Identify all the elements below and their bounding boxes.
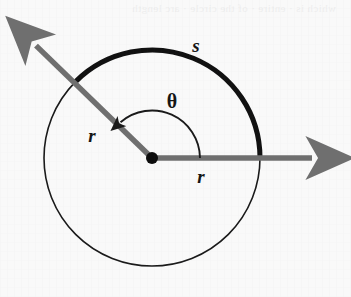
central-angle-arc — [121, 111, 201, 158]
figure-root: which is · entire · of the circle · arc … — [0, 0, 351, 297]
label-central-angle-theta: θ — [167, 90, 177, 112]
circle-radian-diagram: s r r θ — [0, 0, 351, 297]
label-radius-diagonal: r — [88, 125, 96, 146]
label-radius-horizontal: r — [197, 166, 205, 187]
circle-center-point — [146, 152, 158, 164]
label-arc-length-s: s — [191, 35, 199, 56]
